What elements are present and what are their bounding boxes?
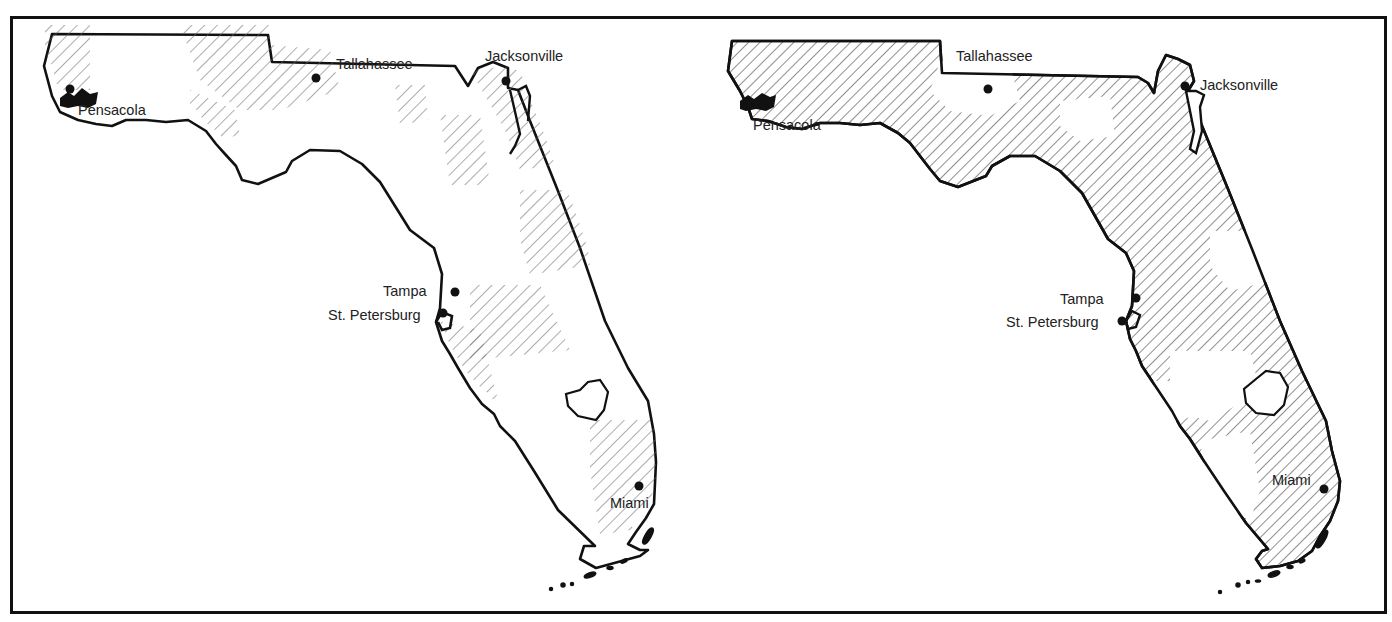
city-label-tampa: Tampa — [383, 283, 427, 299]
city-label-pensacola: Pensacola — [753, 117, 822, 133]
city-label-miami: Miami — [1272, 472, 1311, 488]
hatch-region — [590, 420, 660, 535]
city-dot-tampa — [451, 288, 460, 297]
city-dot-pensacola — [66, 85, 75, 94]
unhatched-region — [1200, 431, 1260, 521]
hatch-region — [395, 85, 428, 125]
hatch-region — [520, 190, 590, 275]
city-dot-miami — [1320, 485, 1329, 494]
city-label-st-petersburg: St. Petersburg — [1006, 314, 1099, 330]
city-label-st-petersburg: St. Petersburg — [328, 307, 421, 323]
city-label-pensacola: Pensacola — [78, 102, 147, 118]
city-dot-st-petersburg — [439, 309, 448, 318]
florida-maps-figure: Pensacola Tallahassee Jacksonville Tampa… — [0, 0, 1392, 622]
city-dot-tallahassee — [312, 74, 321, 83]
city-dot-tallahassee — [984, 85, 993, 94]
city-label-jacksonville: Jacksonville — [1200, 77, 1278, 93]
city-dot-jacksonville — [502, 77, 511, 86]
city-label-miami: Miami — [610, 495, 649, 511]
city-dot-st-petersburg — [1118, 317, 1127, 326]
city-label-tampa: Tampa — [1060, 291, 1104, 307]
city-dot-miami — [635, 482, 644, 491]
city-dot-pensacola — [743, 100, 752, 109]
city-dot-jacksonville — [1181, 82, 1190, 91]
city-dot-tampa — [1132, 294, 1141, 303]
city-label-tallahassee: Tallahassee — [336, 56, 413, 72]
city-label-jacksonville: Jacksonville — [485, 48, 563, 64]
city-label-tallahassee: Tallahassee — [956, 48, 1033, 64]
